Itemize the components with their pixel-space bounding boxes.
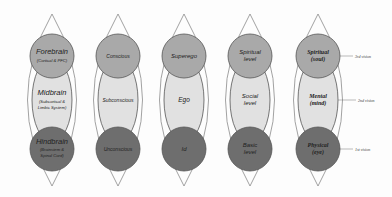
column-levels: Spiritual level Social level Basic level <box>226 14 275 186</box>
column-soul-mind-eye: Spiritual (soul) Mental (mind) Physical … <box>294 14 343 186</box>
label-spiritual-soul-2: (soul) <box>311 56 325 63</box>
annotation-3rd-vision: 3rd vision <box>355 54 371 59</box>
label-id: Id <box>181 146 187 152</box>
annotation-1st-vision: 1st vision <box>355 147 370 152</box>
label-social-level-1: Social <box>242 93 259 99</box>
column-freud: Superego Ego Id <box>160 14 209 186</box>
label-mental-mind-1: Mental <box>308 93 327 99</box>
annotation-2nd-vision: 2nd vision <box>358 98 375 103</box>
label-spiritual-soul-1: Spiritual <box>307 49 329 55</box>
label-social-level-2: level <box>244 100 257 106</box>
label-physical-eye-2: (eye) <box>312 149 324 156</box>
label-basic-level-1: Basic <box>243 142 258 148</box>
label-unconscious: Unconscious <box>104 146 133 152</box>
label-ego: Ego <box>178 96 190 104</box>
top-circle <box>30 34 74 78</box>
column-brain: Forebrain (Cortical & PFC) Midbrain (Sub… <box>28 14 77 186</box>
label-hindbrain-sub2: Spinal Cord) <box>40 153 64 158</box>
vision-annotations: 3rd vision 2nd vision 1st vision <box>338 54 375 152</box>
label-midbrain-sub2: Limbic System) <box>38 105 67 110</box>
label-spiritual-level-1: Spiritual <box>239 49 261 55</box>
label-superego: Superego <box>171 53 198 59</box>
label-forebrain-sub: (Cortical & PFC) <box>37 58 68 63</box>
label-conscious: Conscious <box>106 53 130 59</box>
brain-mind-levels-diagram: Forebrain (Cortical & PFC) Midbrain (Sub… <box>0 0 392 197</box>
label-spiritual-level-2: level <box>244 56 257 62</box>
label-basic-level-2: level <box>244 149 257 155</box>
label-hindbrain-sub1: (Brainstem & <box>40 147 64 152</box>
column-consciousness: Conscious Subconscious Unconscious <box>94 14 143 186</box>
label-midbrain: Midbrain <box>38 88 67 97</box>
label-midbrain-sub1: (Subcortical & <box>39 99 65 104</box>
label-subconscious: Subconscious <box>102 97 134 103</box>
label-mental-mind-2: (mind) <box>310 100 327 107</box>
label-forebrain: Forebrain <box>36 47 68 56</box>
label-hindbrain: Hindbrain <box>36 137 68 146</box>
label-physical-eye-1: Physical <box>308 142 329 148</box>
